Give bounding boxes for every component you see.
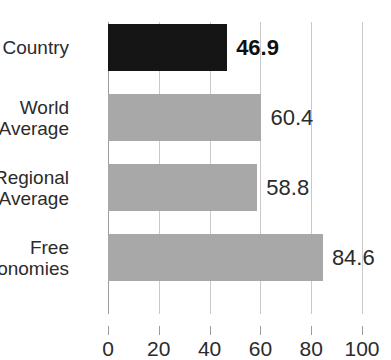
x-tick-0 — [108, 326, 109, 335]
category-label-line: Country — [0, 37, 69, 58]
category-label-line: World — [0, 97, 69, 118]
category-label-country: Country — [0, 37, 69, 58]
x-tick-20 — [159, 326, 160, 335]
gridline-100 — [362, 22, 363, 314]
x-tick-label-100: 100 — [332, 338, 391, 360]
x-tick-80 — [311, 326, 312, 335]
value-label-world-average: 60.4 — [270, 107, 313, 129]
category-label-world-average: WorldAverage — [0, 97, 69, 139]
x-tick-100 — [362, 326, 363, 335]
category-label-line: Average — [0, 188, 69, 209]
plot-area: 020406080100Country46.9WorldAverage60.4R… — [108, 22, 362, 304]
bar-regional-average — [108, 164, 257, 211]
category-label-line: Economies — [0, 258, 69, 279]
bar-country — [108, 24, 227, 71]
bar-world-average — [108, 94, 261, 141]
category-label-line: Average — [0, 118, 69, 139]
value-label-country: 46.9 — [236, 37, 279, 59]
category-label-regional-average: RegionalAverage — [0, 167, 69, 209]
category-label-line: Regional — [0, 167, 69, 188]
x-tick-40 — [210, 326, 211, 335]
category-label-line: Free — [0, 237, 69, 258]
value-label-regional-average: 58.8 — [266, 177, 309, 199]
category-label-free-economies: FreeEconomies — [0, 237, 69, 279]
bar-free-economies — [108, 234, 323, 281]
value-label-free-economies: 84.6 — [332, 247, 375, 269]
chart-title-cropped — [0, 0, 391, 11]
x-tick-60 — [260, 326, 261, 335]
